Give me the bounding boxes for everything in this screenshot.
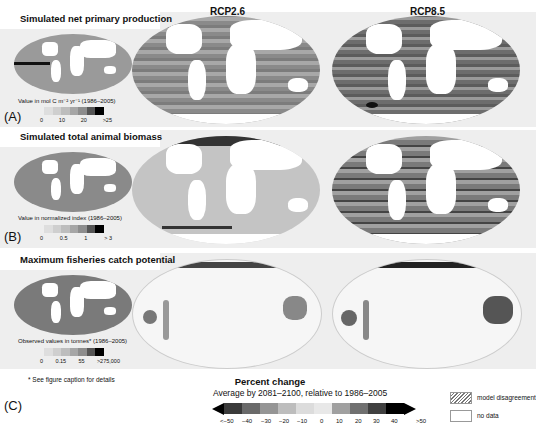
baseline-colorbar-ticks: 00.51> 3	[40, 235, 112, 241]
baseline-colorbar	[44, 225, 104, 233]
rcp26-map-catch	[132, 259, 322, 369]
panel-letter: (B)	[4, 229, 21, 244]
percent-change-colorbar	[212, 402, 416, 415]
rcp26-map-biomass	[132, 136, 320, 244]
panel-title-box: Simulated total animal biomass	[0, 129, 160, 147]
panel-title: Simulated net primary production	[20, 13, 172, 24]
legend-caption: Value in mol C m⁻² yr⁻¹ (1986–2005)	[18, 97, 116, 104]
baseline-colorbar-ticks: 01020>25	[40, 117, 112, 123]
hatch-swatch	[450, 392, 472, 404]
colorbar-tick: >50	[416, 418, 426, 424]
colorbar-tick: 30	[373, 418, 380, 424]
colorbar-tick: −20	[279, 418, 289, 424]
colorbar-subtitle: Average by 2081–2100, relative to 1986–2…	[200, 388, 400, 398]
rcp85-map-npp	[332, 16, 520, 124]
colorbar-tick: 40	[391, 418, 398, 424]
nodata-swatch	[450, 410, 472, 422]
baseline-map-biomass	[14, 152, 132, 212]
colorbar-tick: 10	[336, 418, 343, 424]
panel-title: Simulated total animal biomass	[20, 131, 162, 142]
rcp26-map-npp	[132, 16, 320, 124]
legend-label-hatch: model disagreement	[477, 394, 536, 401]
baseline-map-npp	[14, 34, 132, 94]
panel-letter: (A)	[4, 109, 21, 124]
baseline-colorbar	[44, 348, 104, 356]
panel-animal-biomass: Simulated total animal biomass Value in …	[0, 130, 536, 248]
colorbar-tick: 0	[320, 418, 323, 424]
colorbar-tick: −30	[261, 418, 271, 424]
rcp85-map-catch	[332, 259, 522, 369]
baseline-colorbar	[44, 107, 104, 115]
panel-title-box: Maximum fisheries catch potential	[0, 252, 160, 270]
legend-label-nodata: no data	[477, 412, 499, 419]
arrow-right-icon	[404, 403, 416, 415]
arrow-left-icon	[212, 403, 224, 415]
legend-caption: Observed values in tonnes* (1986–2005)	[18, 338, 127, 344]
panel-letter: (C)	[4, 398, 22, 413]
colorbar-tick: <−50	[220, 418, 234, 424]
column-header-rcp26: RCP2.6	[210, 6, 245, 17]
colorbar-tick: −40	[242, 418, 252, 424]
baseline-colorbar-ticks: 00.1555>275,000	[40, 358, 120, 364]
panel-title-box: Simulated net primary production	[0, 11, 160, 29]
rcp85-map-biomass	[332, 136, 520, 244]
panel-title: Maximum fisheries catch potential	[20, 254, 175, 265]
panel-fisheries-catch: Maximum fisheries catch potential Observ…	[0, 253, 536, 369]
baseline-map-catch	[14, 275, 132, 335]
column-header-rcp85: RCP8.5	[410, 6, 445, 17]
colorbar-tick: −10	[297, 418, 307, 424]
legend-caption: Value in normalized index (1986–2005)	[18, 215, 122, 221]
colorbar-tick: 20	[355, 418, 362, 424]
colorbar-title: Percent change	[200, 376, 340, 387]
footnote: * See figure caption for details	[28, 376, 115, 383]
panel-net-primary-production: Simulated net primary production Value i…	[0, 12, 536, 127]
